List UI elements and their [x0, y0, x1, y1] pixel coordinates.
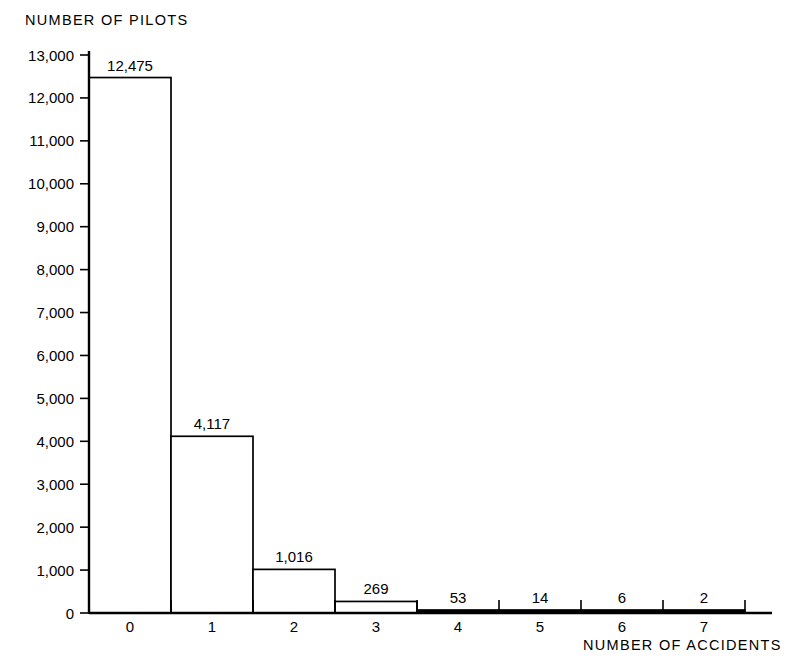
y-tick-label: 9,000: [36, 218, 74, 235]
bars-group: [89, 78, 745, 613]
bar-value-label: 269: [363, 580, 388, 597]
bar-value-label: 14: [532, 589, 549, 606]
y-tick-label: 4,000: [36, 433, 74, 450]
y-tick-label: 11,000: [29, 132, 74, 149]
y-tick-label: 2,000: [36, 519, 74, 536]
y-tick-label: 8,000: [36, 261, 74, 278]
bar-value-label: 4,117: [194, 415, 230, 432]
y-axis-ticks: 13,00012,00011,00010,0009,0008,0007,0006…: [28, 47, 89, 622]
bar-value-label: 53: [450, 589, 467, 606]
bar-value-label: 2: [700, 589, 708, 606]
x-tick-label: 4: [454, 618, 462, 635]
y-tick-label: 12,000: [28, 89, 74, 106]
bar: [253, 569, 335, 613]
histogram-chart: NUMBER OF PILOTS 13,00012,00011,00010,00…: [0, 0, 793, 671]
x-axis-title: NUMBER OF ACCIDENTS: [583, 637, 782, 653]
bar-value-label: 6: [618, 589, 626, 606]
y-tick-label: 5,000: [36, 390, 74, 407]
bar: [335, 601, 417, 613]
y-tick-label: 0: [66, 605, 74, 622]
chart-canvas: NUMBER OF PILOTS 13,00012,00011,00010,00…: [0, 0, 793, 671]
y-axis-title: NUMBER OF PILOTS: [25, 12, 188, 28]
y-tick-label: 10,000: [28, 175, 74, 192]
x-tick-label: 1: [208, 618, 216, 635]
bar: [171, 436, 253, 613]
x-tick-label: 6: [618, 618, 626, 635]
y-tick-label: 3,000: [36, 476, 74, 493]
y-tick-label: 7,000: [36, 304, 74, 321]
y-tick-label: 1,000: [36, 562, 74, 579]
bar-value-label: 1,016: [275, 548, 313, 565]
x-tick-label: 3: [372, 618, 380, 635]
bar-value-label: 12,475: [107, 57, 153, 74]
bar: [89, 78, 171, 613]
y-tick-label: 13,000: [28, 47, 74, 64]
x-tick-label: 0: [126, 618, 134, 635]
x-tick-label: 2: [290, 618, 298, 635]
x-tick-label: 5: [536, 618, 544, 635]
x-tick-label: 7: [700, 618, 708, 635]
y-tick-label: 6,000: [36, 347, 74, 364]
